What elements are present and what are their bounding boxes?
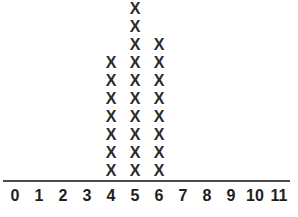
x-mark: X [123, 90, 147, 108]
plot-area: XXXXXXXXXXXXXXXXXXXXXXXXX [0, 0, 298, 180]
tick-label-2: 2 [50, 184, 76, 208]
tick-label-3: 3 [74, 184, 100, 208]
x-mark: X [123, 144, 147, 162]
x-mark: X [123, 108, 147, 126]
x-mark: X [99, 126, 123, 144]
x-mark: X [147, 126, 171, 144]
value-stack: XXXXXXXX [147, 36, 171, 180]
tick-label-6: 6 [146, 184, 172, 208]
x-mark: X [99, 90, 123, 108]
x-mark: X [99, 144, 123, 162]
x-mark: X [99, 162, 123, 180]
x-mark: X [99, 54, 123, 72]
x-axis-line [3, 180, 290, 182]
tick-label-8: 8 [194, 184, 220, 208]
value-stack: XXXXXXXXXX [123, 0, 147, 180]
x-mark: X [123, 36, 147, 54]
value-stack: XXXXXXX [99, 54, 123, 180]
x-mark: X [147, 90, 171, 108]
tick-label-0: 0 [2, 184, 28, 208]
x-mark: X [123, 18, 147, 36]
x-mark: X [147, 54, 171, 72]
x-mark: X [123, 126, 147, 144]
x-axis-tick-labels: 01234567891011 [0, 184, 298, 210]
x-mark: X [147, 144, 171, 162]
tick-label-9: 9 [218, 184, 244, 208]
x-mark: X [123, 162, 147, 180]
tick-label-4: 4 [98, 184, 124, 208]
x-mark: X [123, 54, 147, 72]
tick-label-10: 10 [242, 184, 268, 208]
dot-plot: XXXXXXXXXXXXXXXXXXXXXXXXX 01234567891011 [0, 0, 298, 217]
x-mark: X [147, 108, 171, 126]
tick-label-1: 1 [26, 184, 52, 208]
x-mark: X [147, 72, 171, 90]
x-mark: X [123, 0, 147, 18]
x-mark: X [147, 162, 171, 180]
tick-label-7: 7 [170, 184, 196, 208]
x-mark: X [123, 72, 147, 90]
x-mark: X [99, 108, 123, 126]
tick-label-11: 11 [266, 184, 292, 208]
x-mark: X [147, 36, 171, 54]
tick-label-5: 5 [122, 184, 148, 208]
x-mark: X [99, 72, 123, 90]
